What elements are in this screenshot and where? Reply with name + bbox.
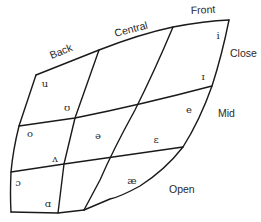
outline-bottom-edge (11, 210, 84, 213)
vowel-schwa: ə (95, 131, 101, 141)
vowel-near-close-front: ɪ (201, 72, 204, 82)
vowel-upsilon: ʊ (64, 103, 70, 113)
close-mid-line (19, 86, 212, 126)
vowel-i: i (216, 31, 219, 41)
open-label: Open (169, 184, 195, 195)
vowel-script-a: ɑ (45, 199, 51, 209)
vowel-chart: Back Central Front Close Mid Open i ɪ e … (0, 0, 261, 222)
vowel-wedge: ʌ (52, 154, 58, 164)
open-mid-line (11, 147, 183, 172)
vowel-open-mid-front: ɛ (153, 135, 158, 145)
close-label: Close (230, 48, 257, 59)
outline-back-edge (11, 75, 37, 212)
vowel-u: u (42, 79, 48, 89)
outline-front-edge (84, 20, 229, 210)
vowel-ash: æ (127, 176, 136, 186)
vowel-o: o (27, 129, 33, 139)
front-label: Front (190, 4, 215, 16)
vowel-e: e (186, 105, 192, 115)
vowel-open-o: ɔ (15, 178, 21, 188)
back-central-divider (58, 50, 99, 213)
mid-label: Mid (218, 108, 235, 119)
